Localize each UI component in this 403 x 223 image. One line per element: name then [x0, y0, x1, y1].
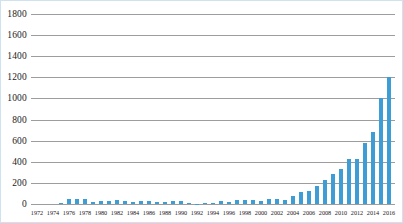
x-tick-slot: 2010 [337, 207, 345, 221]
bar-slot [137, 14, 145, 204]
bar [99, 201, 104, 204]
bar [163, 202, 168, 204]
bar [251, 200, 256, 204]
x-axis-labels: 1972197419761978198019821984198619881990… [31, 207, 395, 221]
x-tick-slot: 1980 [97, 207, 105, 221]
bar-slot [241, 14, 249, 204]
bar [115, 200, 120, 204]
bar-slot [153, 14, 161, 204]
x-tick-slot: 1986 [145, 207, 153, 221]
bar-slot [177, 14, 185, 204]
x-tick-slot: 2016 [385, 207, 393, 221]
bar-slot [33, 14, 41, 204]
bar-slot [281, 14, 289, 204]
y-axis-tick-label: 1600 [7, 30, 27, 40]
bar [203, 203, 208, 204]
bar-slot [305, 14, 313, 204]
bar [123, 201, 128, 204]
plot-area: 020040060080010001200140016001800 [31, 14, 395, 204]
x-tick-slot: 2014 [369, 207, 377, 221]
bar [387, 77, 392, 204]
bar-slot [169, 14, 177, 204]
bar-slot [385, 14, 393, 204]
bar-slot [145, 14, 153, 204]
bar [91, 202, 96, 204]
bar [67, 199, 72, 204]
y-axis-tick-label: 1400 [7, 51, 27, 61]
bar [323, 180, 328, 204]
bar [171, 201, 176, 204]
x-tick-slot: 2012 [353, 207, 361, 221]
bar-slot [217, 14, 225, 204]
bar [219, 201, 224, 204]
bar [307, 191, 312, 204]
y-axis-tick-label: 1000 [7, 93, 27, 103]
bar-slot [249, 14, 257, 204]
bar [83, 199, 88, 204]
bar-slot [185, 14, 193, 204]
bar [339, 169, 344, 204]
bar-slot [209, 14, 217, 204]
bar-slot [345, 14, 353, 204]
bar-slot [193, 14, 201, 204]
x-tick-slot: 1974 [49, 207, 57, 221]
bars-group [31, 14, 395, 204]
y-axis-tick-label: 1800 [7, 9, 27, 19]
bar-slot [321, 14, 329, 204]
bar [243, 200, 248, 204]
bar-slot [129, 14, 137, 204]
bar [107, 201, 112, 204]
y-axis-tick-label: 400 [12, 157, 27, 167]
bar [275, 199, 280, 204]
bar [211, 203, 216, 204]
bar [331, 174, 336, 204]
bar [227, 202, 232, 204]
axis-baseline: 0 [31, 204, 395, 205]
bar-slot [377, 14, 385, 204]
bar [187, 203, 192, 204]
x-tick-slot: 1994 [209, 207, 217, 221]
bar-slot [233, 14, 241, 204]
bar-slot [297, 14, 305, 204]
bar-slot [329, 14, 337, 204]
bar [179, 201, 184, 204]
bar-slot [353, 14, 361, 204]
x-tick-slot: 2008 [321, 207, 329, 221]
chart-figure: 020040060080010001200140016001800 197219… [0, 0, 403, 223]
bar-slot [337, 14, 345, 204]
x-tick-slot: 2004 [289, 207, 297, 221]
bar-slot [225, 14, 233, 204]
bar [147, 201, 152, 204]
x-tick-slot: 1984 [129, 207, 137, 221]
bar [283, 200, 288, 204]
bar-slot [97, 14, 105, 204]
bar-slot [113, 14, 121, 204]
bar [315, 186, 320, 204]
x-tick-slot: 1972 [33, 207, 41, 221]
bar-slot [273, 14, 281, 204]
bar [291, 196, 296, 204]
bar-slot [369, 14, 377, 204]
y-axis-tick-label: 200 [12, 178, 27, 188]
x-tick-slot: 1988 [161, 207, 169, 221]
bar-slot [105, 14, 113, 204]
bar [235, 200, 240, 204]
bar [379, 98, 384, 204]
y-axis-tick-label: 0 [22, 199, 27, 209]
x-tick-slot: 1976 [65, 207, 73, 221]
x-tick-slot: 1990 [177, 207, 185, 221]
bar-slot [81, 14, 89, 204]
bar [131, 202, 136, 204]
bar-slot [313, 14, 321, 204]
bar-slot [161, 14, 169, 204]
x-tick-slot: 1992 [193, 207, 201, 221]
x-tick-slot: 1982 [113, 207, 121, 221]
bar [355, 159, 360, 204]
bar-slot [201, 14, 209, 204]
bar-slot [65, 14, 73, 204]
y-axis-tick-label: 1200 [7, 72, 27, 82]
y-axis-tick-label: 600 [12, 136, 27, 146]
bar [75, 199, 80, 204]
bar-slot [41, 14, 49, 204]
x-tick-slot: 1998 [241, 207, 249, 221]
